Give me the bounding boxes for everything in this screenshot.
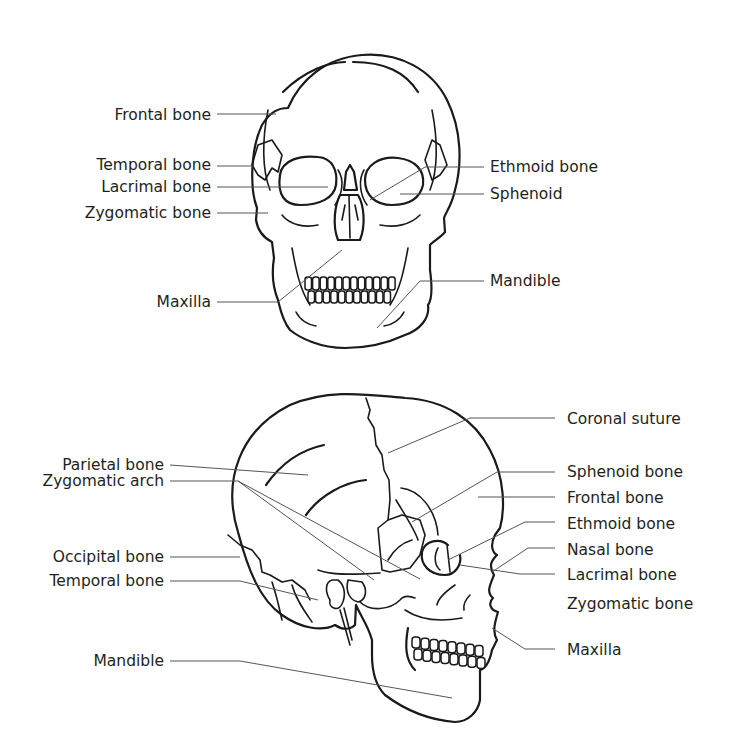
side-lower-tooth [459,655,467,666]
front-nasal-septum [342,195,358,238]
leader-side-coronal [388,418,555,453]
side-coronal-suture [366,398,390,520]
front-lower-tooth [323,291,330,303]
front-upper-tooth [335,277,342,290]
front-lower-tooth [384,291,391,303]
front-upper-tooth [366,277,373,290]
label-front-maxilla: Maxilla [157,293,211,311]
front-orbit-left [279,157,336,205]
front-upper-tooth [389,277,396,290]
side-mastoid [272,582,312,622]
leader-side-zygomatic-arch-a [170,481,374,580]
front-upper-tooth [358,277,365,290]
skull-diagram: Frontal bone Temporal bone Lacrimal bone… [0,0,740,755]
label-side-temporal-bone: Temporal bone [48,572,164,590]
side-teeth [412,637,485,668]
front-upper-tooth [328,277,335,290]
front-cranium-inner-arc-right [353,62,418,92]
label-side-sphenoid-bone: Sphenoid bone [567,463,683,481]
label-front-frontal-bone: Frontal bone [114,106,211,124]
side-upper-tooth [457,643,465,654]
front-chin-line-right [384,312,404,326]
label-front-temporal-bone: Temporal bone [95,156,211,174]
side-upper-tooth [421,638,429,649]
label-side-frontal-bone: Frontal bone [567,489,664,507]
side-upper-tooth [475,645,483,656]
anterior-skull-drawing [252,55,460,348]
front-upper-tooth [343,277,350,290]
leader-side-maxilla [492,628,555,649]
side-coronoid [360,596,415,608]
front-lower-tooth [308,291,315,303]
front-lower-tooth [369,291,376,303]
label-side-zygomatic-arch: Zygomatic arch [43,472,164,490]
side-lower-tooth [441,653,449,664]
side-zygomatic-region [378,515,425,572]
side-lower-tooth [468,656,476,667]
front-teeth [305,277,395,303]
side-upper-tooth [466,644,474,655]
front-nasal-bridge [344,165,357,190]
side-orbit-inner [435,545,450,572]
side-condyle [347,580,365,602]
side-lower-tooth [414,649,422,660]
leader-side-zygomatic-arch-b [238,481,420,579]
side-temporal-line-upper [266,445,324,485]
front-upper-tooth [381,277,388,290]
side-zygomatic-arch [318,570,380,574]
side-sphenoid-curve [401,488,438,535]
side-lower-tooth [423,650,431,661]
front-lower-tooth [376,291,383,303]
label-side-coronal-suture: Coronal suture [567,410,681,428]
front-lower-tooth [331,291,338,303]
leader-front-ethmoid [370,167,484,200]
front-lower-tooth [338,291,345,303]
front-cheek-line-right [380,215,420,226]
label-side-occipital-bone: Occipital bone [53,548,164,566]
label-side-nasal-bone: Nasal bone [567,541,654,559]
label-side-zygomatic-bone: Zygomatic bone [567,595,693,613]
front-upper-tooth [320,277,327,290]
front-cheek-line-left [282,215,318,226]
front-lower-tooth [354,291,361,303]
front-cranium-outline [252,55,459,348]
side-zygomatic-inner [388,540,412,560]
label-front-zygomatic-bone: Zygomatic bone [85,204,211,222]
label-front-sphenoid: Sphenoid [490,185,563,203]
side-upper-tooth [439,641,447,652]
leader-side-nasal [492,548,555,572]
side-orbit [422,541,461,575]
front-upper-tooth [351,277,358,290]
side-upper-tooth [412,637,420,648]
side-maxilla-line-1 [437,585,455,605]
side-cheek-curve [405,610,462,620]
front-cranium-inner-arc-left [283,62,345,92]
label-front-mandible: Mandible [490,272,561,290]
label-side-lacrimal-bone: Lacrimal bone [567,566,677,584]
side-ear-canal [326,580,344,608]
front-lower-tooth [316,291,323,303]
leader-side-mandible [170,661,452,698]
label-front-lacrimal-bone: Lacrimal bone [101,178,211,196]
lateral-skull-drawing [228,394,503,722]
label-side-maxilla: Maxilla [567,641,621,659]
side-upper-tooth [448,642,456,653]
label-side-mandible: Mandible [93,652,164,670]
front-lower-tooth [346,291,353,303]
front-lower-tooth [361,291,368,303]
front-chin-line-left [296,312,316,326]
front-upper-tooth [313,277,320,290]
side-temporal-line-lower [306,480,366,515]
side-lower-tooth [432,651,440,662]
label-front-ethmoid-bone: Ethmoid bone [490,158,598,176]
side-upper-tooth [430,639,438,650]
label-side-ethmoid-bone: Ethmoid bone [567,515,675,533]
leader-side-lacrimal [460,565,555,574]
side-styloid [340,608,352,645]
side-lower-tooth [477,657,485,668]
side-maxilla-line-2 [464,595,470,610]
side-cranium-outline [232,394,503,722]
side-lower-tooth [450,654,458,665]
front-upper-tooth [373,277,380,290]
leader-side-ethmoid [448,522,555,560]
